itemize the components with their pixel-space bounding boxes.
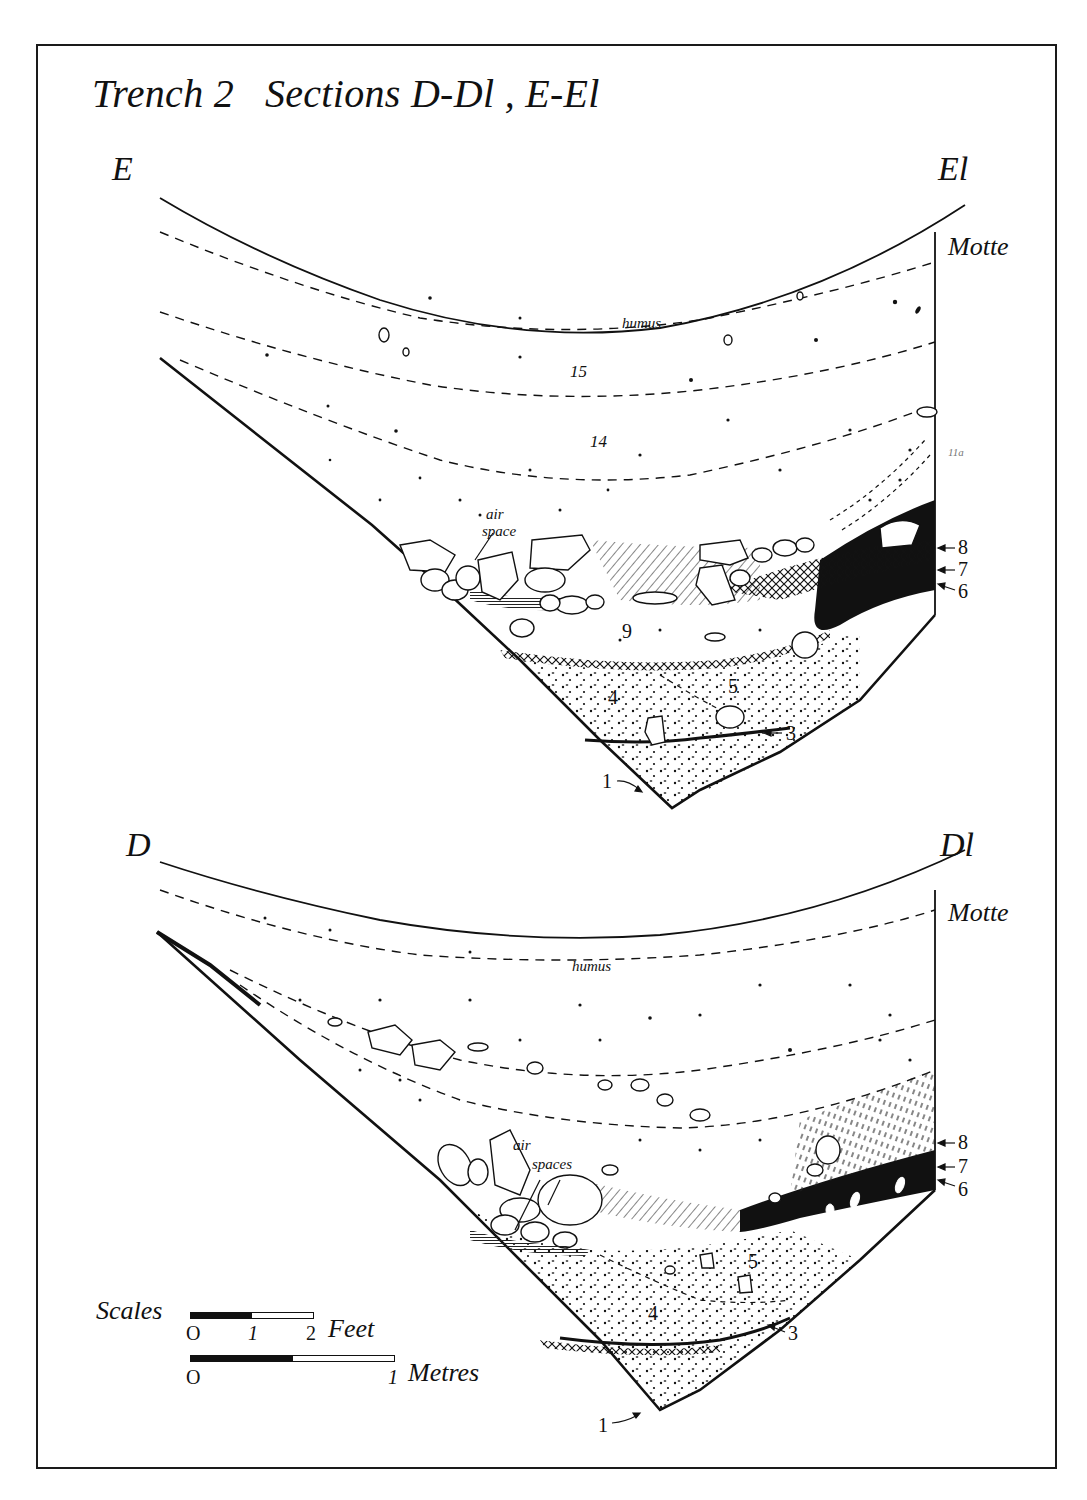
upper-air-label: air	[486, 506, 504, 523]
feet-tick-0: O	[186, 1322, 200, 1345]
section-d-motte-label: Motte	[948, 898, 1009, 928]
feet-scale-bar	[190, 1312, 314, 1319]
metres-tick-0: O	[186, 1366, 200, 1389]
upper-layer-11a-label: 11a	[948, 446, 964, 458]
upper-space-label: space	[482, 523, 516, 540]
metres-scale-bar	[190, 1355, 395, 1362]
upper-pointer-3-label: 3	[786, 722, 796, 745]
upper-layer-5-label: 5	[728, 675, 738, 698]
feet-tick-2: 2	[306, 1322, 316, 1345]
upper-layer-humus-label: humus	[622, 315, 661, 332]
upper-layer-4-label: 4	[608, 686, 618, 709]
feet-unit-label: Feet	[328, 1314, 374, 1344]
lower-pointer-3-label: 3	[788, 1322, 798, 1345]
upper-layer-14-label: 14	[590, 432, 607, 452]
upper-pointer-7-label: 7	[958, 558, 968, 581]
metres-tick-1: 1	[388, 1366, 398, 1389]
lower-layer-5-label: 5	[748, 1250, 758, 1273]
lower-layer-4-label: 4	[648, 1302, 658, 1325]
upper-pointer-8-label: 8	[958, 536, 968, 559]
lower-pointer-1-label: 1	[598, 1414, 608, 1437]
section-d-left-end-label: D	[126, 826, 151, 864]
feet-tick-1: 1	[248, 1322, 258, 1345]
lower-pointer-6-label: 6	[958, 1178, 968, 1201]
lower-pointer-8-label: 8	[958, 1131, 968, 1154]
scales-label: Scales	[96, 1296, 162, 1326]
section-e-drawing	[0, 0, 1087, 1500]
upper-pointer-1-label: 1	[602, 770, 612, 793]
upper-layer-15-label: 15	[570, 362, 587, 382]
lower-spaces-label: spaces	[532, 1156, 572, 1173]
upper-layer-9-label: 9	[622, 620, 632, 643]
lower-air-label: air	[513, 1137, 531, 1154]
lower-pointer-7-label: 7	[958, 1155, 968, 1178]
metres-unit-label: Metres	[408, 1358, 479, 1388]
section-d-right-end-label: Dl	[940, 826, 974, 864]
lower-layer-humus-label: humus	[572, 958, 611, 975]
upper-pointer-6-label: 6	[958, 580, 968, 603]
